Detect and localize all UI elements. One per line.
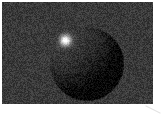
image-viewer-canvas: [0, 0, 161, 117]
noisy-sphere-photo: [2, 2, 153, 104]
scan-artifact-line: [146, 106, 160, 113]
